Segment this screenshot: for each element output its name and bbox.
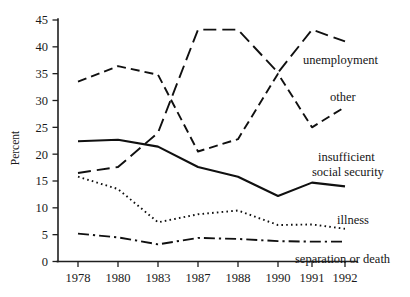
x-tick-label: 1990	[266, 271, 291, 285]
x-tick-label: 1983	[146, 271, 171, 285]
series-label: unemployment	[303, 53, 379, 67]
y-tick-label: 10	[36, 201, 49, 215]
y-tick-label: 30	[36, 94, 49, 108]
x-tick-label: 1992	[333, 271, 358, 285]
x-tick-label: 1987	[186, 271, 211, 285]
series-annotations: unemploymentotherinsufficientsocial secu…	[295, 53, 391, 266]
y-tick-label: 20	[36, 148, 49, 162]
y-tick-label: 0	[42, 255, 48, 269]
series-line-unemployment	[78, 30, 345, 173]
series-label: social security	[312, 165, 385, 179]
y-tick-label: 25	[36, 121, 49, 135]
y-tick-label: 40	[36, 40, 49, 54]
y-tick-label: 35	[36, 67, 49, 81]
x-tick-label: 1991	[300, 271, 325, 285]
y-axis-title: Percent	[9, 130, 21, 165]
series-line-separation-or-death	[78, 234, 345, 245]
y-tick-label: 5	[42, 228, 48, 242]
y-axis: 051015202530354045	[36, 13, 59, 269]
line-chart: 051015202530354045 197819801983198719881…	[0, 0, 410, 297]
y-tick-label: 45	[36, 13, 49, 27]
series-label: separation or death	[295, 252, 391, 266]
chart-container: 051015202530354045 197819801983198719881…	[0, 0, 410, 297]
x-tick-label: 1988	[226, 271, 251, 285]
series-label: illness	[337, 213, 369, 227]
y-axis-ticks: 051015202530354045	[36, 13, 59, 269]
series-label: other	[330, 90, 357, 104]
x-tick-label: 1980	[106, 271, 131, 285]
series-label: insufficient	[318, 150, 375, 164]
y-tick-label: 15	[36, 174, 49, 188]
x-tick-label: 1978	[66, 271, 91, 285]
